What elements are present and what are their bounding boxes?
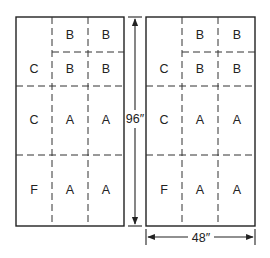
- cell-label-b: B: [233, 28, 241, 42]
- cell-label-a: A: [233, 113, 242, 127]
- width-dimension: 48″: [146, 229, 255, 245]
- cell-label-b: B: [102, 28, 110, 42]
- cell-label-b: B: [102, 62, 110, 76]
- height-dimension: 96″: [125, 17, 145, 226]
- right-panel: CBBBBCAAFAA: [146, 17, 255, 226]
- cell-label-b: B: [66, 62, 74, 76]
- cell-label-c: C: [159, 62, 168, 76]
- cell-label-b: B: [233, 62, 241, 76]
- cell-label-a: A: [102, 183, 111, 197]
- cell-label-b: B: [66, 28, 74, 42]
- cell-label-c: C: [159, 113, 168, 127]
- cell-label-a: A: [66, 113, 75, 127]
- cell-label-a: A: [233, 183, 242, 197]
- cell-label-a: A: [196, 183, 205, 197]
- panel-layout-diagram: CBBBBCAAFAA CBBBBCAAFAA 96″ 48″: [0, 0, 270, 258]
- cell-label-b: B: [196, 62, 204, 76]
- cell-label-b: B: [196, 28, 204, 42]
- cell-label-f: F: [30, 183, 38, 197]
- cell-label-a: A: [102, 113, 111, 127]
- cell-label-c: C: [29, 113, 38, 127]
- cell-label-c: C: [29, 62, 38, 76]
- cell-label-a: A: [66, 183, 75, 197]
- width-label: 48″: [192, 231, 211, 245]
- cell-label-a: A: [196, 113, 205, 127]
- cell-label-f: F: [160, 183, 168, 197]
- left-panel: CBBBBCAAFAA: [16, 17, 124, 226]
- height-label: 96″: [126, 112, 145, 126]
